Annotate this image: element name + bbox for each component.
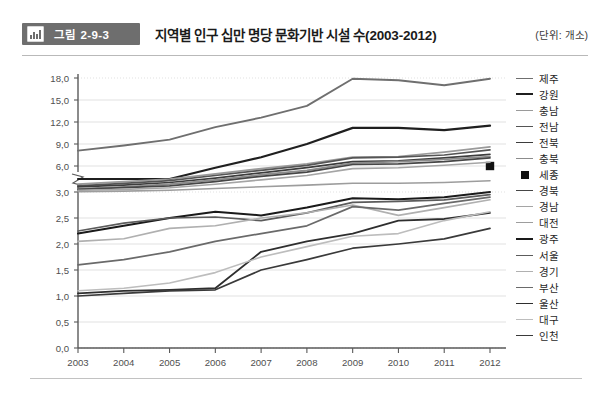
legend-label: 대전: [539, 215, 559, 230]
svg-text:0,5: 0,5: [56, 317, 69, 328]
legend-item-3[interactable]: 전남: [516, 118, 606, 134]
legend-line-swatch: [516, 319, 533, 320]
legend-item-12[interactable]: 경기: [516, 263, 606, 279]
legend-item-0[interactable]: 제주: [516, 70, 606, 86]
legend-label: 광주: [539, 231, 559, 246]
svg-text:12,0: 12,0: [50, 117, 69, 128]
legend-item-7[interactable]: 경북: [516, 183, 606, 199]
svg-text:2012: 2012: [479, 357, 500, 368]
legend-item-4[interactable]: 전북: [516, 134, 606, 150]
legend-line-swatch: [516, 271, 533, 272]
legend-item-13[interactable]: 부산: [516, 279, 606, 295]
legend-item-11[interactable]: 서울: [516, 247, 606, 263]
legend-line-swatch: [516, 222, 533, 223]
legend-line-swatch: [516, 190, 533, 191]
legend-item-16[interactable]: 인천: [516, 328, 606, 344]
legend-label: 울산: [539, 296, 559, 311]
svg-text:2011: 2011: [434, 357, 455, 368]
legend-item-15[interactable]: 대구: [516, 311, 606, 327]
legend-label: 경북: [539, 183, 559, 198]
svg-text:3,0: 3,0: [56, 187, 69, 198]
svg-text:1,0: 1,0: [56, 291, 69, 302]
legend-item-10[interactable]: 광주: [516, 231, 606, 247]
svg-text:2,0: 2,0: [56, 239, 69, 250]
svg-text:9,0: 9,0: [56, 139, 69, 150]
legend-label: 전북: [539, 135, 559, 150]
legend-line-swatch: [516, 110, 533, 111]
legend-item-2[interactable]: 충남: [516, 102, 606, 118]
legend-line-swatch: [516, 158, 533, 159]
legend-line-swatch: [516, 78, 533, 79]
svg-text:18,0: 18,0: [50, 73, 69, 84]
legend-item-5[interactable]: 충북: [516, 150, 606, 166]
legend-line-swatch: [516, 287, 533, 288]
svg-text:1,5: 1,5: [56, 265, 69, 276]
legend-label: 대구: [539, 312, 559, 327]
svg-text:2005: 2005: [159, 357, 180, 368]
svg-text:2007: 2007: [250, 357, 271, 368]
svg-text:2006: 2006: [205, 357, 226, 368]
svg-text:2009: 2009: [342, 357, 363, 368]
legend-line-swatch: [516, 238, 533, 240]
legend-label: 세종: [539, 167, 559, 182]
legend-label: 제주: [539, 71, 559, 86]
legend-line-swatch: [516, 335, 533, 336]
legend-line-swatch: [516, 93, 533, 95]
legend-label: 전남: [539, 119, 559, 134]
legend-item-6[interactable]: 세종: [516, 167, 606, 183]
legend-item-9[interactable]: 대전: [516, 215, 606, 231]
legend-item-8[interactable]: 경남: [516, 199, 606, 215]
svg-text:2003: 2003: [67, 357, 88, 368]
footer-divider: [30, 378, 582, 379]
legend-label: 충남: [539, 103, 559, 118]
svg-text:6,0: 6,0: [56, 161, 69, 172]
legend-label: 인천: [539, 328, 559, 343]
legend-label: 부산: [539, 280, 559, 295]
legend-label: 서울: [539, 248, 559, 263]
svg-text:0,0: 0,0: [56, 343, 69, 354]
legend-label: 경남: [539, 199, 559, 214]
legend-label: 강원: [539, 87, 559, 102]
legend-line-swatch: [516, 126, 533, 127]
legend-label: 경기: [539, 264, 559, 279]
legend-line-swatch: [516, 206, 533, 207]
svg-text:2008: 2008: [296, 357, 317, 368]
legend-item-1[interactable]: 강원: [516, 86, 606, 102]
svg-text:15,0: 15,0: [50, 95, 69, 106]
legend-line-swatch: [516, 255, 533, 256]
chart-legend: 제주강원충남전남전북충북세종경북경남대전광주서울경기부산울산대구인천: [516, 70, 606, 344]
legend-item-14[interactable]: 울산: [516, 295, 606, 311]
svg-text:2010: 2010: [388, 357, 409, 368]
figure-page: 그림 2-9-3 지역별 인구 십만 명당 문화기반 시설 수(2003-201…: [0, 0, 610, 397]
svg-text:2004: 2004: [113, 357, 135, 368]
legend-line-swatch: [516, 142, 533, 143]
legend-label: 충북: [539, 151, 559, 166]
legend-line-swatch: [516, 303, 533, 304]
svg-text:2,5: 2,5: [56, 213, 69, 224]
legend-marker-square: [521, 171, 529, 179]
